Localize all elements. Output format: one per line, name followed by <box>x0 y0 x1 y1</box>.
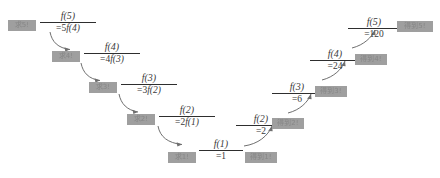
return-expr-4-numerator: f(4) <box>310 48 360 59</box>
call-expr-4-numerator: f(4) <box>84 41 140 52</box>
call-expr-3: f(3) =3f(2) <box>121 72 177 96</box>
return-expr-5-denominator: =120 <box>348 29 400 40</box>
return-expr-4: f(4) =24 <box>310 48 360 72</box>
return-chip-2[interactable]: 得到2! <box>272 118 304 129</box>
call-expr-5-numerator: f(5) <box>40 10 96 21</box>
call-expr-5: f(5) =5f(4) <box>40 10 96 34</box>
call-chip-4[interactable]: 求4! <box>52 51 80 62</box>
return-chip-5[interactable]: 得到5! <box>397 21 433 32</box>
arrow-call-2-to-1 <box>158 126 182 147</box>
arrow-call-4-to-3 <box>81 63 100 83</box>
base-case-numerator: f(1) <box>199 138 243 149</box>
call-expr-2-numerator: f(2) <box>159 104 215 115</box>
base-case-denominator: =1 <box>199 151 243 162</box>
arrow-call-3-to-2 <box>119 94 138 114</box>
call-expr-2: f(2) =2f(1) <box>159 104 215 128</box>
call-expr-4: f(4) =4f(3) <box>84 41 140 65</box>
return-chip-4[interactable]: 得到4! <box>355 54 387 65</box>
return-chip-1[interactable]: 得到1! <box>245 152 277 163</box>
call-expr-2-denominator: =2f(1) <box>159 117 215 128</box>
return-chip-3[interactable]: 得到3! <box>315 86 347 97</box>
arrow-call-5-to-4 <box>50 32 70 52</box>
call-expr-5-denominator: =5f(4) <box>40 23 96 34</box>
return-expr-5-numerator: f(5) <box>348 16 400 27</box>
call-chip-1[interactable]: 求1! <box>168 152 196 163</box>
call-expr-3-numerator: f(3) <box>121 72 177 83</box>
call-expr-3-denominator: =3f(2) <box>121 85 177 96</box>
call-chip-2[interactable]: 求2! <box>127 114 155 125</box>
recursion-trace-diagram: 求5! f(5) =5f(4) 求4! f(4) =4f(3) 求3! f(3)… <box>0 0 440 178</box>
call-chip-5[interactable]: 求5! <box>8 20 36 31</box>
return-expr-4-denominator: =24 <box>310 61 360 72</box>
return-expr-5: f(5) =120 <box>348 16 400 40</box>
base-case-expr: f(1) =1 <box>199 138 243 162</box>
call-expr-4-denominator: =4f(3) <box>84 54 140 65</box>
call-chip-3[interactable]: 求3! <box>89 82 117 93</box>
